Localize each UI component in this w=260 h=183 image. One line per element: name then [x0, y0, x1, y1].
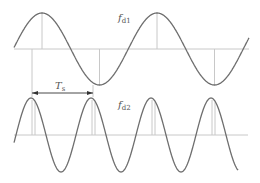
arrowhead-right-icon — [87, 91, 93, 95]
axes — [14, 49, 249, 135]
label-fd1: fd1 — [117, 12, 131, 25]
label-ts: Ts — [55, 80, 66, 93]
sample-markers — [32, 13, 215, 135]
waveform-svg: fd1 fd2 Ts — [0, 0, 260, 183]
arrowhead-left-icon — [32, 91, 38, 95]
label-fd2: fd2 — [117, 99, 131, 112]
waveform-diagram: fd1 fd2 Ts — [0, 0, 260, 183]
